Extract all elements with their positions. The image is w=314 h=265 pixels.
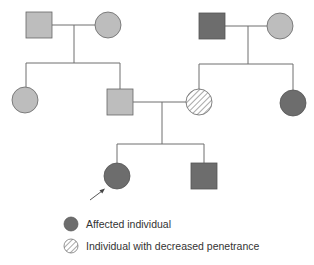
male-affected-I-3 xyxy=(199,13,225,39)
generation-1-left-couple xyxy=(26,12,121,63)
male-affected-III-2 xyxy=(191,163,217,189)
generation-3-sibship xyxy=(90,144,217,200)
male-unaffected-II-2 xyxy=(107,89,133,115)
legend-affected-label: Affected individual xyxy=(86,218,171,230)
generation-1-right-couple xyxy=(199,13,293,64)
male-unaffected-I-1 xyxy=(26,12,52,38)
legend xyxy=(64,217,78,253)
female-affected-proband-III-1 xyxy=(104,163,130,189)
female-unaffected-I-2 xyxy=(95,12,121,38)
female-unaffected-II-1 xyxy=(12,87,38,113)
legend-decreased-penetrance-label: Individual with decreased penetrance xyxy=(86,240,259,252)
legend-hatched-icon xyxy=(64,239,78,253)
generation-2-left-sibship xyxy=(12,63,133,115)
female-unaffected-I-4 xyxy=(267,13,293,39)
legend-affected-icon xyxy=(64,217,78,231)
female-affected-II-4 xyxy=(280,90,306,116)
generation-2-right-sibship xyxy=(186,64,306,116)
female-decreased-penetrance-II-3 xyxy=(186,89,212,115)
proband-arrow-icon xyxy=(90,189,105,201)
generation-2-couple xyxy=(133,102,186,144)
